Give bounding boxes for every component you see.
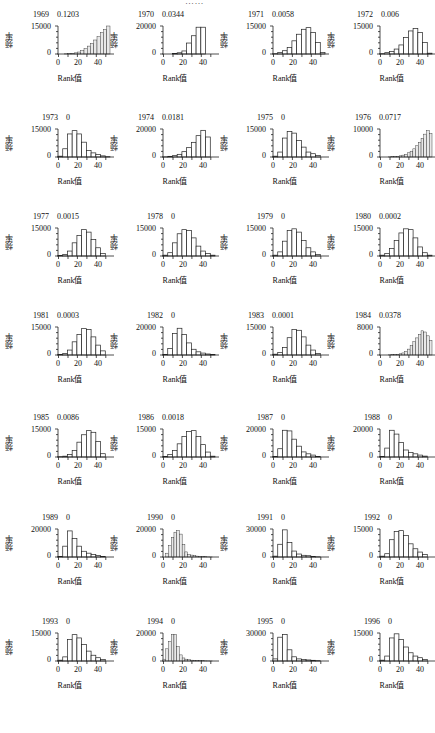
panel-year: 1987 (257, 413, 273, 422)
histogram-bars (163, 26, 215, 54)
x-tick-20: 20 (179, 665, 187, 674)
x-tick-40: 40 (94, 58, 102, 67)
panel-title: 1974 0.0181 (135, 113, 187, 122)
x-tick-20: 20 (396, 260, 404, 269)
x-tick-0: 0 (161, 260, 165, 269)
x-axis-label: Rank值 (380, 72, 405, 83)
histogram-panel-1987: 1987 0 20000 0 频率 02040 Rank值 (215, 413, 320, 503)
x-tick-0: 0 (56, 359, 60, 368)
x-tick-0: 0 (271, 561, 275, 570)
y-max-tick-label: 10000 (353, 125, 373, 134)
histogram-bars (380, 129, 432, 157)
x-tick-0: 0 (271, 161, 275, 170)
x-tick-20: 20 (396, 561, 404, 570)
y-axis-label: 频率 (109, 234, 120, 250)
y-max-tick-label: 15000 (353, 629, 373, 638)
panel-title: 1980 0.0002 (352, 212, 404, 221)
histogram-panel-1972: 1972 0.006 15000 0 频率 02040 Rank值 (322, 10, 427, 100)
plot-area (273, 429, 325, 457)
y-zero-tick-label: 0 (262, 655, 266, 664)
x-tick-40: 40 (309, 260, 317, 269)
y-max-tick-label: 15000 (31, 125, 51, 134)
histogram-bars (273, 228, 325, 256)
x-tick-20: 20 (179, 161, 187, 170)
panel-title: 1973 0 (39, 113, 73, 122)
histogram-bars (273, 633, 325, 661)
panel-title: 1984 0.0378 (352, 311, 404, 320)
panel-title: 1990 0 (144, 513, 178, 522)
x-tick-40: 40 (94, 665, 102, 674)
histogram-grid: 1969 0.1203 15000 0 频率 02040 Rank值 1970 … (0, 0, 435, 733)
panel-title: 1975 0 (254, 113, 288, 122)
panel-title: 1991 0 (254, 513, 288, 522)
x-tick-20: 20 (289, 665, 297, 674)
histogram-panel-1996: 1996 0 15000 0 频率 02040 Rank值 (322, 617, 427, 707)
panel-year: 1971 (248, 10, 264, 19)
x-tick-40: 40 (309, 359, 317, 368)
y-axis-label: 频率 (219, 32, 230, 48)
panel-title: 1972 0.006 (354, 10, 402, 19)
y-axis-label: 频率 (326, 639, 337, 655)
y-axis-label: 频率 (109, 639, 120, 655)
x-tick-20: 20 (179, 260, 187, 269)
y-zero-tick-label: 0 (369, 551, 373, 560)
histogram-bars (273, 327, 325, 355)
panel-value: 0 (171, 212, 175, 221)
y-max-tick-label: 15000 (31, 22, 51, 31)
plot-area (380, 26, 432, 54)
y-axis-label: 频率 (326, 435, 337, 451)
x-tick-40: 40 (199, 58, 207, 67)
x-axis-label: Rank值 (273, 72, 298, 83)
panel-title: 1969 0.1203 (30, 10, 82, 19)
panel-year: 1975 (257, 113, 273, 122)
panel-year: 1983 (248, 311, 264, 320)
histogram-bars (273, 429, 325, 457)
x-tick-40: 40 (416, 58, 424, 67)
histogram-bars (58, 633, 110, 661)
histogram-bars (58, 26, 110, 54)
x-axis-label: Rank值 (273, 475, 298, 486)
y-zero-tick-label: 0 (152, 655, 156, 664)
panel-value: 0.0058 (272, 10, 294, 19)
y-max-tick-label: 20000 (136, 629, 156, 638)
y-zero-tick-label: 0 (262, 250, 266, 259)
panel-year: 1989 (42, 513, 58, 522)
histogram-bars (380, 228, 432, 256)
histogram-bars (58, 429, 110, 457)
x-tick-0: 0 (56, 461, 60, 470)
panel-value: 0 (388, 413, 392, 422)
x-axis-label: Rank值 (58, 475, 83, 486)
y-zero-tick-label: 0 (47, 48, 51, 57)
y-zero-tick-label: 0 (152, 551, 156, 560)
histogram-bars (58, 327, 110, 355)
histogram-bars (163, 327, 215, 355)
histogram-panel-1983: 1983 0.0001 15000 0 频率 02040 Rank值 (215, 311, 320, 401)
x-axis-label: Rank值 (380, 679, 405, 690)
y-zero-tick-label: 0 (152, 349, 156, 358)
x-tick-20: 20 (289, 359, 297, 368)
x-axis-label: Rank值 (380, 175, 405, 186)
panel-year: 1977 (33, 212, 49, 221)
x-axis-label: Rank值 (58, 274, 83, 285)
y-max-tick-label: 15000 (353, 22, 373, 31)
y-max-tick-label: 15000 (31, 323, 51, 332)
x-tick-40: 40 (309, 58, 317, 67)
y-axis-label: 频率 (4, 435, 15, 451)
y-axis-label: 频率 (109, 435, 120, 451)
panel-value: 0 (281, 513, 285, 522)
x-axis-label: Rank值 (163, 373, 188, 384)
x-tick-20: 20 (74, 58, 82, 67)
y-axis-label: 频率 (326, 32, 337, 48)
panel-year: 1981 (33, 311, 49, 320)
histogram-bars (58, 529, 110, 557)
panel-year: 1969 (33, 10, 49, 19)
y-zero-tick-label: 0 (47, 451, 51, 460)
histogram-panel-1970: 1970 0.0344 20000 0 频率 02040 Rank值 (105, 10, 210, 100)
x-tick-40: 40 (94, 461, 102, 470)
x-tick-20: 20 (74, 161, 82, 170)
histogram-panel-1984: 1984 0.0378 8000 0 频率 02040 Rank值 (322, 311, 427, 401)
plot-area (273, 529, 325, 557)
x-tick-0: 0 (378, 461, 382, 470)
x-tick-20: 20 (74, 461, 82, 470)
x-tick-20: 20 (179, 561, 187, 570)
